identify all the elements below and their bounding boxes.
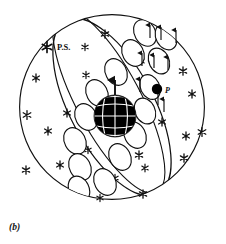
star xyxy=(82,43,88,50)
figure-container: P.S. xyxy=(0,0,226,244)
point-p-label: P xyxy=(165,86,170,95)
point-p-dot xyxy=(152,84,162,94)
star xyxy=(22,166,29,174)
star xyxy=(33,74,40,82)
pole-star-icon xyxy=(42,42,51,53)
star xyxy=(23,111,31,120)
star xyxy=(198,128,206,137)
star xyxy=(57,161,64,169)
star xyxy=(135,151,142,159)
star xyxy=(189,90,196,98)
star xyxy=(183,132,190,140)
figure-caption: (b) xyxy=(9,222,20,232)
star xyxy=(45,127,52,135)
star xyxy=(83,71,89,78)
earth-globe xyxy=(94,95,137,137)
star xyxy=(142,164,148,172)
celestial-sphere-diagram: P.S. xyxy=(0,0,226,244)
point-p-marker xyxy=(152,84,162,94)
pole-star-label: P.S. xyxy=(57,42,70,52)
band-loop xyxy=(89,165,121,200)
star xyxy=(179,67,186,75)
